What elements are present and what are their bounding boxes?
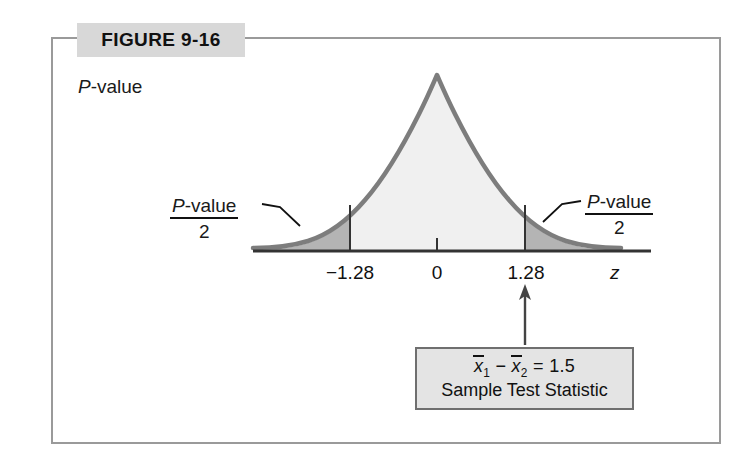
right-fraction-numerator-rest: -value xyxy=(600,191,652,212)
center-region xyxy=(253,76,621,250)
figure-number-tag: FIGURE 9-16 xyxy=(77,23,245,57)
caption-italic-p: P xyxy=(78,76,91,97)
xbar2-subscript: 2 xyxy=(521,366,528,380)
caption-rest: -value xyxy=(91,76,143,97)
figure-number-label: FIGURE 9-16 xyxy=(101,29,221,51)
left-fraction-denominator: 2 xyxy=(170,222,238,241)
left-fraction-numerator: P-value xyxy=(170,196,238,219)
xbar2-symbol: x xyxy=(512,356,521,377)
left-fraction-numerator-italic: P xyxy=(172,195,185,216)
left-fraction-numerator-rest: -value xyxy=(185,195,237,216)
right-fraction-denominator: 2 xyxy=(585,218,653,237)
callout-description: Sample Test Statistic xyxy=(441,380,608,401)
left-label-leader-line xyxy=(262,204,300,226)
axis-tick-label-negative: −1.28 xyxy=(313,262,387,284)
axis-label-z: z xyxy=(610,262,620,284)
right-fraction-numerator: P-value xyxy=(585,192,653,215)
page-title: P-value xyxy=(78,76,142,98)
right-tail-pvalue-label: P-value 2 xyxy=(585,192,653,237)
right-fraction-numerator-italic: P xyxy=(587,191,600,212)
figure-container: FIGURE 9-16 P-value xyxy=(0,0,755,463)
xbar1-symbol: x xyxy=(474,356,483,377)
callout-formula: x1 − x2 = 1.5 xyxy=(474,356,575,380)
axis-tick-label-zero: 0 xyxy=(417,262,457,284)
sample-test-statistic-callout: x1 − x2 = 1.5 Sample Test Statistic xyxy=(415,347,634,410)
right-label-leader-line xyxy=(543,201,581,222)
callout-minus: − xyxy=(490,356,511,376)
axis-tick-label-positive: 1.28 xyxy=(492,262,560,284)
left-tail-pvalue-label: P-value 2 xyxy=(170,196,238,241)
callout-equals-value: = 1.5 xyxy=(528,356,575,376)
